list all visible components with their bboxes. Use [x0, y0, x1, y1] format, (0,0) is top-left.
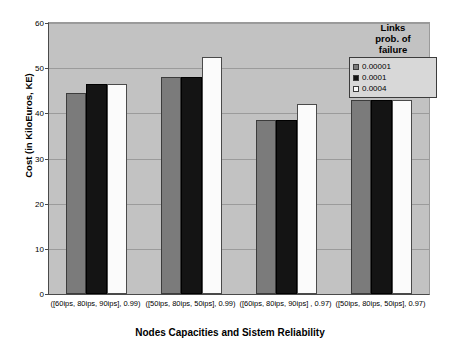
legend-title-line-2: prob. of: [349, 33, 437, 44]
legend-item-label: 0.0004: [362, 83, 386, 94]
x-axis-category-label: ([50ips, 80ips, 50ips], 0.97): [313, 299, 448, 308]
bar: [107, 84, 128, 294]
legend-swatch-icon: [353, 86, 359, 92]
legend-title-line-1: Links: [349, 22, 437, 33]
legend-title-line-3: failure: [349, 44, 437, 55]
bar: [276, 120, 297, 294]
bar: [297, 104, 318, 294]
y-axis-tick-label: 0: [40, 290, 44, 299]
y-axis-tick-mark: [45, 294, 49, 295]
y-axis-tick-label: 10: [35, 244, 44, 253]
bar: [351, 100, 372, 294]
legend-entries: 0.000010.00010.0004: [349, 57, 437, 98]
bar: [371, 100, 392, 294]
legend-swatch-icon: [353, 64, 359, 70]
legend-title: Links prob. of failure: [349, 22, 437, 55]
legend-item: 0.0004: [353, 83, 432, 94]
x-axis-title: Nodes Capacities and Sistem Reliability: [0, 327, 460, 338]
legend: Links prob. of failure 0.000010.00010.00…: [349, 22, 437, 98]
bar: [181, 77, 202, 294]
bar: [392, 100, 413, 294]
legend-swatch-icon: [353, 75, 359, 81]
legend-item: 0.00001: [353, 61, 432, 72]
y-axis-tick-label: 60: [35, 19, 44, 28]
y-axis-tick-label: 30: [35, 154, 44, 163]
legend-item: 0.0001: [353, 72, 432, 83]
bar: [256, 120, 277, 294]
bar: [66, 93, 87, 294]
y-axis-title: Cost (in KiloEuros, KE): [23, 46, 34, 206]
bar-chart: Cost (in KiloEuros, KE) 0102030405060 ([…: [0, 0, 460, 352]
y-axis-tick-label: 20: [35, 199, 44, 208]
bar: [86, 84, 107, 294]
y-axis-tick-label: 50: [35, 64, 44, 73]
bar: [202, 57, 223, 294]
bar: [161, 77, 182, 294]
legend-item-label: 0.0001: [362, 72, 386, 83]
y-axis-tick-label: 40: [35, 109, 44, 118]
legend-item-label: 0.00001: [362, 61, 391, 72]
